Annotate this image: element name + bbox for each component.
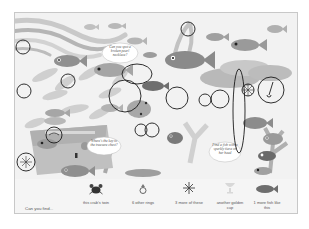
fish-icon <box>127 37 147 45</box>
fish-icon <box>143 52 157 58</box>
fish-icon <box>165 51 215 69</box>
fish-icon <box>255 184 279 194</box>
can-you-find-strip: Can you find... this crab's twin 6 other… <box>15 179 298 214</box>
fish-icon <box>267 25 287 33</box>
fish-icon <box>108 23 126 29</box>
crab-icon <box>89 183 103 195</box>
find-item-starfish-label: 3 more of these <box>174 201 204 206</box>
fish-icon <box>167 132 183 144</box>
fish-icon <box>142 81 169 91</box>
fish-icon <box>84 24 99 30</box>
fish-icon <box>127 100 151 118</box>
fish-icon <box>231 39 267 51</box>
find-item-cup-label: another golden cup <box>213 201 247 210</box>
speech-bubble-key: Where's the key to the treasure chest? <box>89 139 119 147</box>
fish-icon <box>263 133 283 145</box>
fish-icon <box>243 117 273 129</box>
find-item-ring-label: 6 other rings <box>128 201 158 206</box>
ring-icon <box>139 183 147 195</box>
speech-bubble-tiara: Find a fish with a sparkly tiara on her … <box>212 143 238 156</box>
starfish-icon <box>183 182 195 194</box>
fish-icon <box>94 63 133 77</box>
find-strip-title: Can you find... <box>25 206 53 211</box>
fish-icon <box>44 117 66 125</box>
fish-icon <box>206 33 229 41</box>
speech-bubble-necklace: Can you spot a broken pearl necklace? <box>105 45 135 58</box>
fish-icon <box>254 167 272 175</box>
fish-icon <box>258 151 276 161</box>
golden-cup-icon <box>223 181 237 195</box>
find-item-fish-label: 1 more fish like this <box>252 201 282 210</box>
find-item-crab-label: this crab's twin <box>81 201 111 206</box>
book-page: Can you spot a broken pearl necklace? Wh… <box>14 12 298 214</box>
